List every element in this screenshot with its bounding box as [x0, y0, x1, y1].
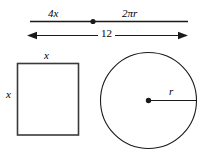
geometry-figure: 4x 2πr 12 x x r	[0, 0, 206, 157]
dimension-arrowhead-right	[178, 32, 188, 39]
label-2pir: 2πr	[122, 8, 137, 19]
label-square-left-side: x	[6, 89, 11, 100]
figure-canvas	[0, 0, 206, 157]
label-total-length-12: 12	[98, 28, 115, 39]
label-square-top-side: x	[44, 50, 49, 61]
square-shape	[18, 64, 79, 136]
label-4x: 4x	[48, 8, 58, 19]
dimension-arrowhead-left	[27, 32, 37, 39]
label-circle-radius: r	[169, 86, 173, 97]
segment-midpoint-dot	[90, 19, 95, 24]
